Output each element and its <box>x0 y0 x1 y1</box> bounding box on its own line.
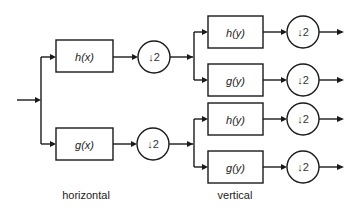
wire-gy2-to-ds <box>263 164 287 170</box>
vertical-split-bottom <box>194 116 208 170</box>
wire-hy2-to-ds <box>263 116 287 122</box>
filter-block-gx: g(x) <box>56 128 113 160</box>
filter-label: g(y) <box>226 162 245 174</box>
wire-ds-to-vsplit-bottom <box>169 141 193 147</box>
downsample-label: ↓2 <box>148 51 160 63</box>
filter-block-hx: h(x) <box>56 40 113 72</box>
downsample-label: ↓2 <box>297 26 309 38</box>
downsample-label: ↓2 <box>297 113 309 125</box>
wire-hy1-to-ds <box>263 29 287 35</box>
output-arrow-4 <box>319 164 344 170</box>
vertical-split-top <box>194 29 208 83</box>
downsample-node-gx: ↓2 <box>137 128 169 160</box>
downsample-node-hy-1: ↓2 <box>287 16 319 48</box>
downsample-label: ↓2 <box>297 161 309 173</box>
filter-label: h(x) <box>75 51 94 63</box>
downsample-label: ↓2 <box>297 74 309 86</box>
wire-gy1-to-ds <box>263 77 287 83</box>
input-arrow <box>17 97 41 103</box>
output-arrow-2 <box>319 77 344 83</box>
wire-ds-to-vsplit-top <box>170 54 193 60</box>
downsample-node-gy-2: ↓2 <box>287 151 319 183</box>
downsample-node-hx: ↓2 <box>138 41 170 73</box>
caption-vertical: vertical <box>218 189 253 201</box>
downsample-node-hy-2: ↓2 <box>287 103 319 135</box>
downsample-label: ↓2 <box>147 138 159 150</box>
filter-label: h(y) <box>226 27 245 39</box>
output-arrow-3 <box>319 116 344 122</box>
downsample-node-gy-1: ↓2 <box>287 64 319 96</box>
wire-gx-to-ds <box>113 141 137 147</box>
caption-horizontal: horizontal <box>62 189 110 201</box>
filter-label: g(x) <box>75 139 94 151</box>
output-arrow-1 <box>319 29 344 35</box>
filter-block-hy-1: h(y) <box>208 16 263 48</box>
filter-bank-diagram: h(x) ↓2 g(x) ↓2 <box>0 0 363 214</box>
filter-label: g(y) <box>226 75 245 87</box>
horizontal-split <box>41 54 56 147</box>
filter-block-gy-2: g(y) <box>208 151 263 183</box>
filter-label: h(y) <box>226 114 245 126</box>
wire-hx-to-ds <box>113 54 138 60</box>
filter-block-gy-1: g(y) <box>208 64 263 96</box>
filter-block-hy-2: h(y) <box>208 103 263 135</box>
